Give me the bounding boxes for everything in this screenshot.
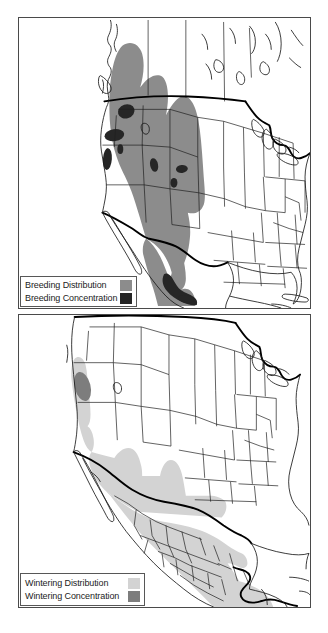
wintering-range-map: Wintering Distribution Wintering Concent… bbox=[18, 314, 311, 608]
wintering-legend: Wintering Distribution Wintering Concent… bbox=[20, 573, 145, 606]
wintering-map-svg bbox=[19, 315, 310, 607]
wintering-concentration-swatch bbox=[128, 591, 140, 602]
legend-row-wintering-concentration: Wintering Concentration bbox=[25, 590, 140, 603]
breeding-distribution-layer bbox=[109, 43, 204, 306]
breeding-distribution-swatch bbox=[120, 280, 132, 291]
legend-row-breeding-concentration: Breeding Concentration bbox=[25, 292, 132, 305]
legend-row-wintering-distribution: Wintering Distribution bbox=[25, 577, 140, 590]
legend-label-wintering-concentration: Wintering Concentration bbox=[25, 590, 119, 603]
legend-label-breeding-distribution: Breeding Distribution bbox=[25, 279, 106, 292]
legend-row-breeding-distribution: Breeding Distribution bbox=[25, 279, 132, 292]
legend-label-breeding-concentration: Breeding Concentration bbox=[25, 292, 117, 305]
breeding-legend: Breeding Distribution Breeding Concentra… bbox=[20, 276, 137, 307]
figure-container: Breeding Distribution Breeding Concentra… bbox=[0, 0, 328, 633]
legend-label-wintering-distribution: Wintering Distribution bbox=[25, 577, 108, 590]
wintering-distribution-swatch bbox=[128, 578, 140, 589]
breeding-concentration-swatch bbox=[120, 293, 132, 304]
breeding-range-map: Breeding Distribution Breeding Concentra… bbox=[18, 17, 311, 309]
breeding-map-svg bbox=[19, 18, 310, 308]
